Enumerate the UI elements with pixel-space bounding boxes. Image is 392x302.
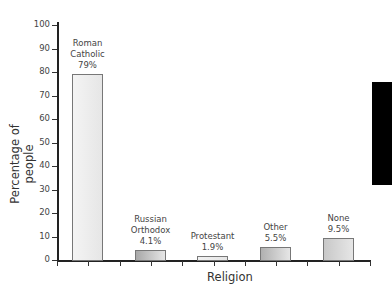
black-side-tab — [372, 82, 392, 185]
bar-data-label: Other5.5% — [241, 222, 311, 244]
y-tick-label: 90 — [28, 43, 50, 53]
bar-label-line: 79% — [53, 60, 123, 71]
x-tick — [339, 261, 340, 266]
bar-label-line: Protestant — [178, 231, 248, 242]
bar-label-line: Russian — [116, 214, 186, 225]
y-tick — [52, 237, 57, 238]
x-tick — [307, 261, 308, 266]
bar-russian-orthodox — [135, 250, 166, 261]
bar-label-line: 1.9% — [178, 242, 248, 253]
x-tick — [151, 261, 152, 266]
bar-label-line: Other — [241, 222, 311, 233]
x-tick — [214, 261, 215, 266]
bar-data-label: RussianOrthodox4.1% — [116, 214, 186, 247]
bar-data-label: Protestant1.9% — [178, 231, 248, 253]
x-tick — [120, 261, 121, 266]
bar-label-line: Catholic — [53, 49, 123, 60]
bar-label-line: 4.1% — [116, 236, 186, 247]
bar-label-line: Orthodox — [116, 225, 186, 236]
bar-other — [260, 247, 291, 261]
bar-label-line: Roman — [53, 38, 123, 49]
y-tick — [52, 25, 57, 26]
bar-label-line: 5.5% — [241, 233, 311, 244]
y-tick — [52, 72, 57, 73]
y-tick — [52, 166, 57, 167]
bar-data-label: None9.5% — [304, 213, 374, 235]
bar-roman-catholic — [72, 74, 103, 261]
y-axis-label: Percentage of people — [8, 104, 36, 224]
x-tick — [57, 261, 58, 266]
y-tick-label: 10 — [28, 231, 50, 241]
bar-label-line: 9.5% — [304, 224, 374, 235]
x-tick — [245, 261, 246, 266]
x-tick — [370, 261, 371, 266]
x-tick — [182, 261, 183, 266]
y-tick-label: 70 — [28, 90, 50, 100]
x-tick — [88, 261, 89, 266]
y-tick — [52, 190, 57, 191]
x-axis-label: Religion — [190, 270, 270, 284]
x-tick — [276, 261, 277, 266]
bar-chart: 0102030405060708090100 Percentage of peo… — [0, 0, 392, 302]
y-tick-label: 100 — [28, 19, 50, 29]
y-tick — [52, 96, 57, 97]
y-tick — [52, 119, 57, 120]
y-tick-label: 0 — [28, 254, 50, 264]
y-tick — [52, 213, 57, 214]
bar-label-line: None — [304, 213, 374, 224]
y-tick — [52, 143, 57, 144]
y-tick-label: 80 — [28, 66, 50, 76]
bar-data-label: RomanCatholic79% — [53, 38, 123, 71]
bar-protestant — [197, 256, 228, 261]
bar-none — [323, 238, 354, 261]
